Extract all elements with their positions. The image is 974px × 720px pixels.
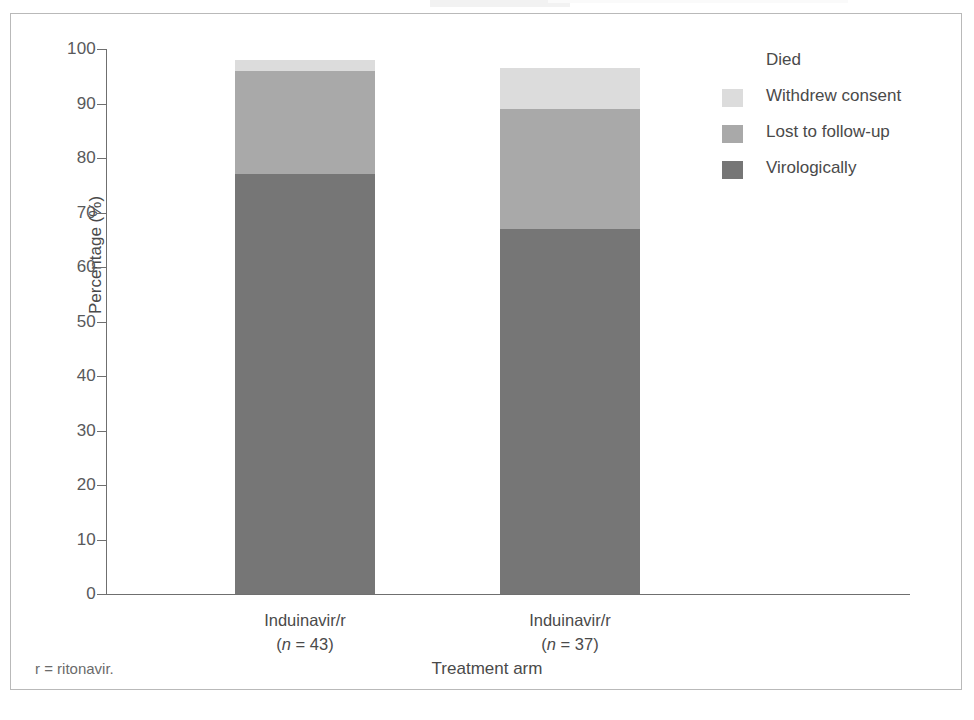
y-axis-tick-label-text: 80: [77, 148, 96, 168]
y-axis-tick-label: 60: [48, 257, 96, 277]
x-axis-title: Treatment arm: [0, 659, 974, 679]
y-axis-tick: [97, 431, 106, 432]
x-axis-line: [106, 594, 910, 595]
legend-item: Withdrew consent: [722, 82, 942, 118]
y-axis-tick-label-text: 100: [67, 39, 96, 59]
x-axis-category-label: Induinavir/r(n = 37): [460, 608, 680, 656]
y-axis-tick: [97, 594, 106, 595]
y-axis-tick-label: 50: [48, 312, 96, 332]
bar-segment: [235, 60, 375, 71]
figure-page: Percentage (%) 0102030405060708090100 In…: [0, 0, 974, 720]
y-axis-tick: [97, 158, 106, 159]
y-axis-tick-label-text: 20: [77, 475, 96, 495]
y-axis-tick-label: 100: [48, 39, 96, 59]
y-axis-tick-label-text: 0: [86, 584, 96, 604]
x-axis-category-count: (n = 43): [195, 632, 415, 656]
y-axis-tick-label-text: 60: [77, 257, 96, 277]
scan-artifact-secondary: [548, 0, 848, 3]
y-axis-tick-label-text: 10: [77, 530, 96, 550]
stacked-bar: [235, 49, 375, 594]
y-axis-tick: [97, 376, 106, 377]
y-axis-tick: [97, 104, 106, 105]
legend-swatch: [722, 125, 743, 143]
legend-item: Virologically: [722, 154, 942, 190]
x-axis-category-name: Induinavir/r: [195, 608, 415, 632]
bar-segment: [235, 174, 375, 594]
chart-legend: DiedWithdrew consentLost to follow-upVir…: [722, 46, 942, 190]
y-axis-tick-label: 10: [48, 530, 96, 550]
y-axis-tick-label-text: 70: [77, 203, 96, 223]
x-axis-category-label: Induinavir/r(n = 43): [195, 608, 415, 656]
y-axis-tick-label-text: 40: [77, 366, 96, 386]
legend-swatch: [722, 89, 743, 107]
y-axis-tick: [97, 213, 106, 214]
x-axis-category-count: (n = 37): [460, 632, 680, 656]
legend-label: Died: [766, 50, 801, 70]
legend-label: Virologically: [766, 158, 856, 178]
y-axis-tick-label: 90: [48, 94, 96, 114]
y-axis-tick-label: 40: [48, 366, 96, 386]
legend-swatch: [722, 53, 743, 71]
y-axis-tick: [97, 267, 106, 268]
y-axis-tick-label: 0: [48, 584, 96, 604]
y-axis-line: [106, 49, 107, 594]
figure-footnote: r = ritonavir.: [35, 660, 114, 677]
y-axis-tick: [97, 485, 106, 486]
legend-item: Died: [722, 46, 942, 82]
bar-segment: [500, 68, 640, 109]
y-axis-tick-label: 20: [48, 475, 96, 495]
y-axis-tick: [97, 49, 106, 50]
bar-segment: [500, 229, 640, 594]
y-axis-tick: [97, 540, 106, 541]
y-axis-tick-label-text: 50: [77, 312, 96, 332]
legend-label: Lost to follow-up: [766, 122, 890, 142]
y-axis-tick-label-text: 30: [77, 421, 96, 441]
y-axis-tick-label: 70: [48, 203, 96, 223]
bar-segment: [500, 109, 640, 229]
y-axis-tick-label-text: 90: [77, 94, 96, 114]
y-axis-tick-label: 80: [48, 148, 96, 168]
legend-swatch: [722, 161, 743, 179]
x-axis-category-name: Induinavir/r: [460, 608, 680, 632]
y-axis-tick-label: 30: [48, 421, 96, 441]
legend-item: Lost to follow-up: [722, 118, 942, 154]
y-axis-tick: [97, 322, 106, 323]
stacked-bar: [500, 49, 640, 594]
bar-segment: [235, 71, 375, 175]
legend-label: Withdrew consent: [766, 86, 901, 106]
